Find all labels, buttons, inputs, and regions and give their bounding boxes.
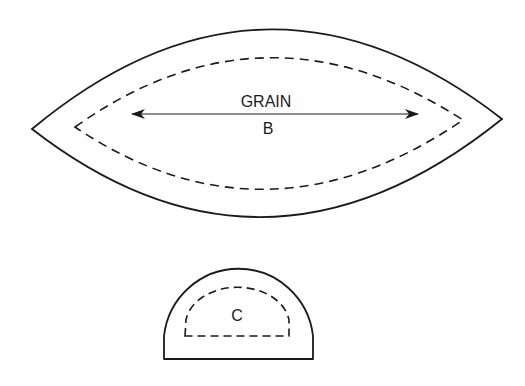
pattern-diagram: GRAIN B C — [0, 0, 525, 386]
grain-label: GRAIN — [241, 93, 292, 110]
pattern-piece-b: GRAIN B — [32, 29, 502, 217]
piece-b-label: B — [263, 120, 274, 137]
piece-c-label: C — [231, 307, 243, 324]
pattern-piece-c: C — [164, 269, 313, 359]
